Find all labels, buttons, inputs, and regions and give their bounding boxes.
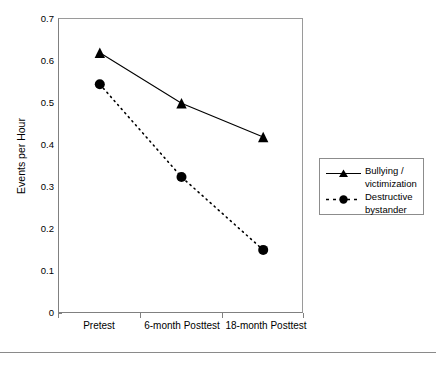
- y-tick-label-0: 0: [20, 308, 54, 318]
- legend-label-bullying: Bullying / victimization: [365, 164, 425, 190]
- legend-label-bullying-line2: victimization: [365, 178, 417, 189]
- bottom-divider-rule: [0, 352, 436, 353]
- y-tick-label-0.3: 0.3: [20, 182, 54, 192]
- x-tick-mark-1: [140, 313, 141, 318]
- y-tick-label-0.7: 0.7: [20, 14, 54, 24]
- plot-area: [58, 18, 303, 313]
- legend-sample-bullying: [325, 167, 362, 180]
- series-bullying-line: [100, 53, 263, 137]
- x-tick-mark-end: [303, 313, 304, 318]
- y-tick-label-0.4: 0.4: [20, 140, 54, 150]
- chart-legend: Bullying / victimization Destructive bys…: [319, 158, 424, 215]
- y-tick-label-0.5: 0.5: [20, 98, 54, 108]
- series-bystander-line: [100, 84, 263, 250]
- data-point-bullying-pretest: [95, 48, 105, 58]
- legend-sample-bystander: [325, 193, 362, 206]
- x-tick-mark-2: [222, 313, 223, 318]
- legend-item-destructive-bystander: Destructive bystander: [320, 193, 425, 219]
- data-point-bystander-6month: [177, 172, 187, 182]
- y-tick-label-0.6: 0.6: [20, 56, 54, 66]
- x-tick-label-18-month-posttest: 18-month Posttest: [213, 320, 319, 332]
- y-tick-label-0.1: 0.1: [20, 266, 54, 276]
- legend-label-bystander: Destructive bystander: [365, 190, 425, 216]
- x-tick-label-pretest: Pretest: [59, 320, 139, 332]
- legend-label-bullying-line1: Bullying /: [365, 165, 404, 176]
- line-chart-figure: Events per Hour 0.7 0.6 0.5 0.4 0.3 0.2 …: [0, 0, 436, 368]
- x-tick-mark-start: [58, 313, 59, 318]
- series-bullying-victimization: [95, 48, 269, 143]
- legend-label-bystander-line1: Destructive: [365, 191, 413, 202]
- y-tick-label-0.2: 0.2: [20, 224, 54, 234]
- legend-label-bystander-line2: bystander: [365, 204, 407, 215]
- y-axis-tick-labels: 0.7 0.6 0.5 0.4 0.3 0.2 0.1 0: [14, 0, 54, 368]
- data-point-bystander-pretest: [95, 79, 105, 89]
- data-point-bullying-18month: [258, 132, 268, 142]
- circle-marker-icon: [339, 195, 347, 203]
- data-point-bystander-18month: [258, 245, 268, 255]
- series-canvas: [59, 19, 304, 314]
- data-point-bullying-6month: [176, 98, 186, 108]
